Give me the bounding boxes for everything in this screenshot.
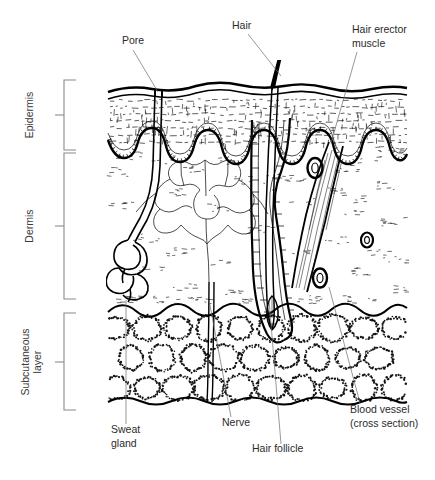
layer-label-subcutaneous-line1: Subcutaneous [19,328,31,395]
hair-follicle [251,88,295,342]
layer-labels: Epidermis Dermis Subcutaneous layer [19,92,43,396]
sweat-gland [106,90,162,302]
callout-label-sweat-gland-line2: gland [111,437,137,449]
callout-label-hair: Hair [232,19,252,31]
bracket-epidermis [55,80,76,150]
surface-line-outer [108,83,407,92]
sweat-duct-left [128,90,155,240]
callout-label-blood-vessel-line1: Blood vessel [350,403,410,415]
leader-hair-follicle [269,300,281,444]
callout-label-hair-erector-muscle: Hair erector muscle [352,23,407,49]
sebaceous-gland [136,160,268,282]
callout-label-hair-erector-muscle-line1: Hair erector [352,23,407,35]
fat-lobule-stipple [108,313,407,402]
skin-drawing [106,34,414,405]
callout-label-sweat-gland: Sweat gland [111,423,140,449]
layer-label-subcutaneous: Subcutaneous layer [19,328,43,395]
layer-bracket-group [55,80,76,410]
skin-cross-section-figure: Epidermis Dermis Subcutaneous layer [0,0,435,480]
subcutaneous-layer [108,304,407,405]
blood-vessel-cross-sections [308,158,374,288]
diagram-svg: Epidermis Dermis Subcutaneous layer [0,0,435,480]
bracket-dermis [55,153,76,299]
callout-label-nerve: Nerve [222,416,250,428]
callout-label-pore: Pore [122,34,144,46]
callout-label-blood-vessel: Blood vessel (cross section) [350,403,418,429]
bracket-subcutaneous [55,313,76,410]
blood-vessel-oval [313,269,327,288]
skin-surface [108,83,407,99]
leader-hair [248,34,281,76]
hair-shaft-external [270,34,288,90]
layer-label-subcutaneous-line2: layer [31,350,43,373]
layer-label-dermis: Dermis [23,209,35,242]
callout-label-sweat-gland-line1: Sweat [111,423,140,435]
callout-label-hair-erector-muscle-line2: muscle [352,37,385,49]
blood-vessel-oval [361,233,373,248]
sweat-gland-coil [106,240,148,302]
callout-label-hair-follicle: Hair follicle [252,442,304,454]
callout-label-blood-vessel-line2: (cross section) [350,417,418,429]
layer-label-epidermis: Epidermis [23,92,35,139]
erector-muscle-left-edge [292,142,329,288]
leader-pore [133,50,158,92]
